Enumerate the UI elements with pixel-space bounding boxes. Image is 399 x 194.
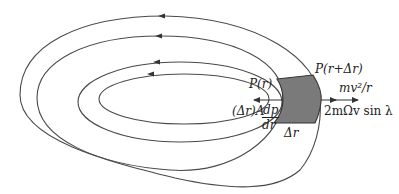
label-pressure-force-prefix: (Δr)A <box>232 105 264 117</box>
label-p-r-dr: P(r+Δr) <box>315 63 363 75</box>
label-centrifugal: mv²/r <box>339 82 372 94</box>
flow-arrow-icon <box>158 14 165 19</box>
isobar-diagram <box>0 0 399 194</box>
air-parcel-shaded <box>274 75 321 123</box>
label-coriolis: 2mΩv sin λ <box>324 105 393 117</box>
flow-arrow-icon <box>155 34 162 39</box>
label-delta-r: Δr <box>284 127 298 139</box>
outer-isobar-1 <box>20 16 320 187</box>
label-p-r: P(r) <box>249 78 272 90</box>
label-coriolis-text: 2mΩv sin λ <box>324 104 393 118</box>
fraction-numerator: dp <box>262 104 279 118</box>
fraction-denominator: dr <box>262 118 279 131</box>
label-pressure-force-fraction: dp dr <box>262 104 279 131</box>
